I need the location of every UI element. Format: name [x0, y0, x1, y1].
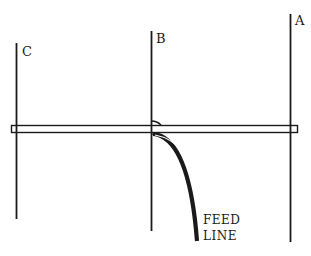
antenna-diagram: C B A FEED LINE [0, 0, 311, 256]
boom [12, 126, 298, 133]
element-a-label: A [294, 13, 305, 28]
element-c-label: C [22, 44, 32, 59]
element-b-label: B [156, 31, 166, 46]
feed-line-label-line1: FEED [203, 213, 240, 227]
feed-line [152, 134, 198, 241]
feed-line-label-line2: LINE [203, 229, 237, 243]
